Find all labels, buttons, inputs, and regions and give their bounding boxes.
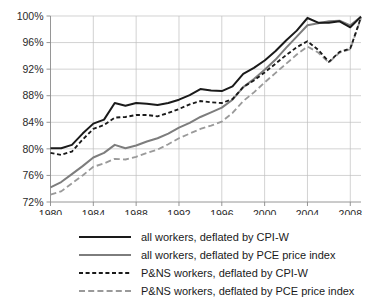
axis-lines <box>51 16 362 202</box>
x-axis-tick-label: 2004 <box>296 208 320 216</box>
x-axis-tick-label: 1980 <box>39 208 63 216</box>
chart-legend: all workers, deflated by CPI-Wall worker… <box>0 228 380 300</box>
chart-container: 72%76%80%84%88%92%96%100% 19801984198819… <box>0 0 380 306</box>
legend-item-label: P&NS workers, deflated by PCE price inde… <box>141 285 354 297</box>
legend-item: all workers, deflated by PCE price index <box>0 246 380 264</box>
series-line <box>51 17 362 155</box>
y-axis-tick-label: 76% <box>22 169 43 181</box>
x-axis-tick-label: 2008 <box>339 208 363 216</box>
x-axis-tick-label: 1992 <box>167 208 191 216</box>
x-axis-tickmarks <box>51 202 351 206</box>
y-axis-tick-label: 80% <box>22 143 43 155</box>
x-axis-tick-label: 2000 <box>253 208 277 216</box>
y-axis-tick-label: 72% <box>22 196 43 208</box>
x-axis-tick-label: 1988 <box>124 208 148 216</box>
x-axis-tick-labels: 19801984198819921996200020042008 <box>39 208 362 216</box>
legend-item: P&NS workers, deflated by PCE price inde… <box>0 282 380 300</box>
y-axis-tick-label: 92% <box>22 63 43 75</box>
legend-line-swatch <box>78 285 132 297</box>
gridlines <box>47 16 362 202</box>
legend-item: P&NS workers, deflated by CPI-W <box>0 264 380 282</box>
legend-item-label: all workers, deflated by CPI-W <box>141 231 289 243</box>
legend-line-swatch <box>78 267 132 279</box>
y-axis-tick-label: 100% <box>17 10 44 22</box>
series-line <box>51 18 362 195</box>
data-series-group <box>51 17 362 195</box>
y-axis-tick-label: 96% <box>22 36 43 48</box>
legend-line-swatch <box>78 231 132 243</box>
y-axis-tick-label: 88% <box>22 89 43 101</box>
line-chart-svg: 72%76%80%84%88%92%96%100% 19801984198819… <box>0 0 380 215</box>
legend-line-swatch <box>78 249 132 261</box>
y-axis-tick-label: 84% <box>22 116 43 128</box>
y-axis-tick-labels: 72%76%80%84%88%92%96%100% <box>17 10 44 208</box>
x-axis-tick-label: 1984 <box>82 208 106 216</box>
legend-item: all workers, deflated by CPI-W <box>0 228 380 246</box>
series-line <box>51 17 362 149</box>
plot-area: 72%76%80%84%88%92%96%100% 19801984198819… <box>0 0 380 215</box>
x-axis-tick-label: 1996 <box>210 208 234 216</box>
legend-item-label: P&NS workers, deflated by CPI-W <box>141 267 308 279</box>
legend-item-label: all workers, deflated by PCE price index <box>141 249 335 261</box>
